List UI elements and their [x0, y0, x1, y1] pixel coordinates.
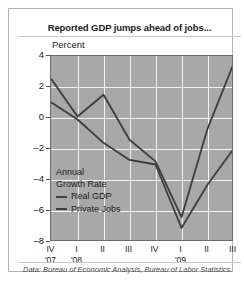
legend-swatch-icon-real-gdp [56, 196, 67, 198]
y-axis-tick-mark [46, 210, 50, 211]
legend-label-private-jobs: Private Jobs [71, 204, 121, 216]
legend-title-line2: Growth Rate [56, 179, 121, 191]
chart-legend: Annual Growth Rate Real GDP Private Jobs [56, 167, 121, 215]
y-axis-tick-mark [46, 55, 50, 56]
y-axis-tick-mark [46, 86, 50, 87]
y-axis-tick-label: –6 [14, 204, 44, 215]
chart-frame: Reported GDP jumps ahead of jobs... Perc… [8, 8, 233, 272]
y-axis-tick-mark [46, 179, 50, 180]
legend-item-real-gdp: Real GDP [56, 191, 121, 203]
y-axis-label: Percent [52, 39, 85, 50]
legend-item-private-jobs: Private Jobs [56, 204, 121, 216]
x-axis-year-label: '09 [166, 255, 196, 265]
chart-title: Reported GDP jumps ahead of jobs... [19, 22, 240, 33]
y-axis-tick-label: 2 [14, 80, 44, 91]
source-note: Data: Bureau of Economic Analysis, Burea… [23, 265, 232, 274]
legend-label-real-gdp: Real GDP [71, 191, 112, 203]
y-axis-tick-mark [46, 148, 50, 149]
y-axis-tick-mark [46, 117, 50, 118]
y-axis-tick-label: 4 [14, 49, 44, 60]
y-axis-tick-label: 0 [14, 111, 44, 122]
y-axis-tick-label: –2 [14, 142, 44, 153]
title-divider [18, 36, 241, 37]
x-axis-tick-label: III [218, 244, 244, 254]
legend-title-line1: Annual [56, 167, 121, 179]
chart-figure: Reported GDP jumps ahead of jobs... Perc… [0, 0, 243, 282]
y-axis-tick-label: –4 [14, 173, 44, 184]
y-axis-tick-mark [46, 241, 50, 242]
source-divider [18, 262, 241, 263]
legend-swatch-icon-private-jobs [56, 208, 67, 210]
x-axis-year-label: '08 [62, 255, 92, 265]
